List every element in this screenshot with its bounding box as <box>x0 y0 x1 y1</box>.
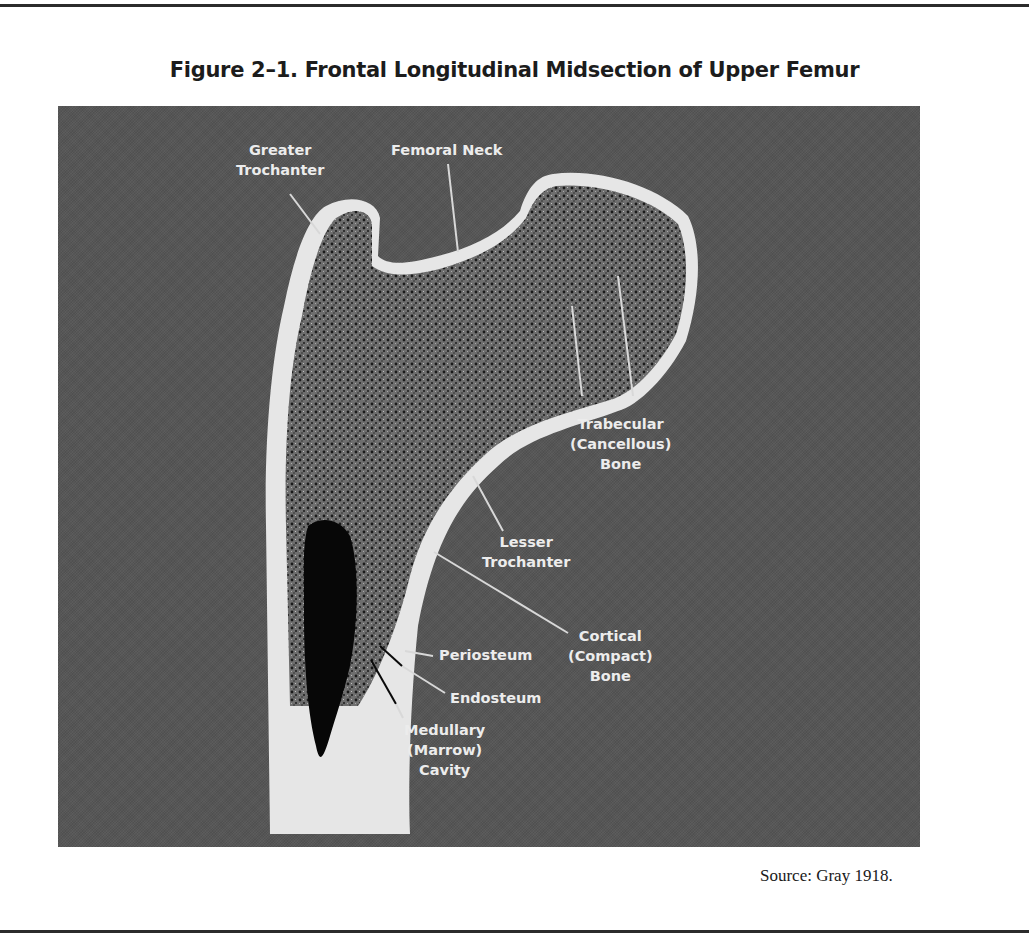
label-line: Cavity <box>404 760 485 780</box>
leader-femoral-neck <box>448 164 458 252</box>
leader-lesser-trochanter <box>473 476 503 531</box>
label-line: Trochanter <box>482 552 570 572</box>
label-line: Cortical <box>568 626 653 646</box>
label-line: (Marrow) <box>404 740 485 760</box>
label-line: Trabecular <box>570 414 671 434</box>
label-line: (Cancellous) <box>570 434 671 454</box>
bottom-rule <box>0 930 1029 933</box>
label-femoral-neck: Femoral Neck <box>391 140 502 160</box>
label-trabecular-bone: Trabecular (Cancellous) Bone <box>570 414 671 474</box>
label-line: (Compact) <box>568 646 653 666</box>
label-line: Trochanter <box>236 160 324 180</box>
figure-source: Source: Gray 1918. <box>760 866 893 886</box>
label-line: Femoral Neck <box>391 140 502 160</box>
label-line: Greater <box>236 140 324 160</box>
label-endosteum: Endosteum <box>450 688 541 708</box>
label-medullary-cavity: Medullary (Marrow) Cavity <box>404 720 485 780</box>
label-line: Periosteum <box>439 645 532 665</box>
label-line: Medullary <box>404 720 485 740</box>
label-line: Bone <box>570 454 671 474</box>
figure-title: Figure 2–1. Frontal Longitudinal Midsect… <box>0 58 1029 82</box>
label-line: Endosteum <box>450 688 541 708</box>
label-periosteum: Periosteum <box>439 645 532 665</box>
label-cortical-bone: Cortical (Compact) Bone <box>568 626 653 686</box>
leader-greater-trochanter <box>290 194 320 234</box>
label-line: Lesser <box>482 532 570 552</box>
top-rule <box>0 4 1029 7</box>
femur-illustration-panel: Greater Trochanter Femoral Neck Trabecul… <box>58 106 920 847</box>
label-lesser-trochanter: Lesser Trochanter <box>482 532 570 572</box>
femur-cross-section-illustration <box>58 106 920 847</box>
label-line: Bone <box>568 666 653 686</box>
label-greater-trochanter: Greater Trochanter <box>236 140 324 180</box>
